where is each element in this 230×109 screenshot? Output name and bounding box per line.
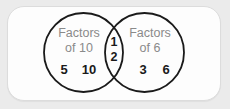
left-set-title-line2: of 10: [65, 41, 93, 55]
right-set-member-0: 3: [139, 62, 146, 77]
intersection-member-1: 2: [111, 50, 118, 64]
right-set-title-line2: of 6: [140, 41, 161, 55]
venn-diagram-figure: Factors of 10 Factors of 6 5 10 3 6 1 2: [0, 0, 230, 109]
venn-diagram-canvas: Factors of 10 Factors of 6 5 10 3 6 1 2: [0, 0, 230, 109]
right-set-title-line1: Factors: [129, 26, 171, 40]
left-set-title-line1: Factors: [58, 26, 100, 40]
right-set-member-1: 6: [162, 62, 169, 77]
left-set-member-1: 10: [82, 62, 96, 77]
intersection-member-0: 1: [111, 35, 118, 49]
left-set-member-0: 5: [60, 62, 67, 77]
